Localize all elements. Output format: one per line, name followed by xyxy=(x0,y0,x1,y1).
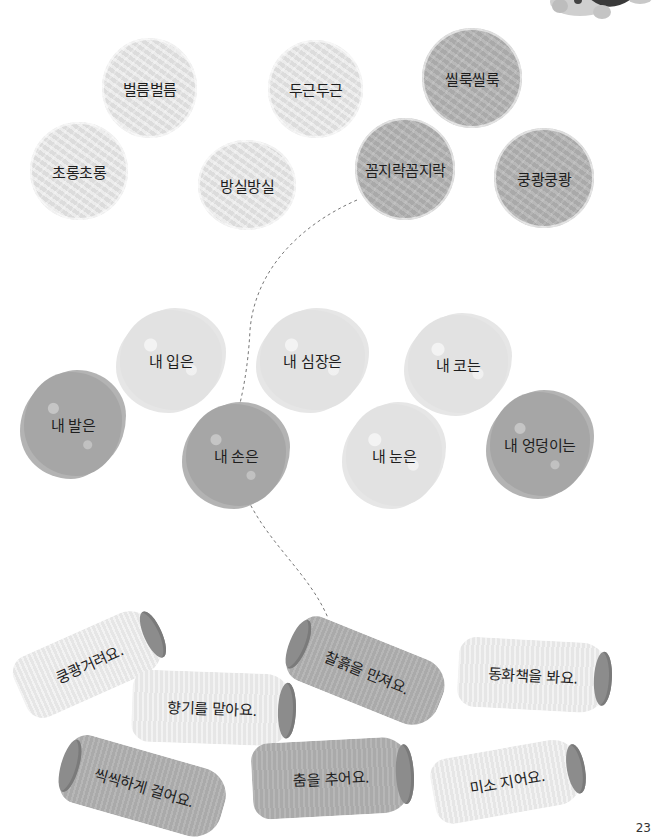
yarn-ball[interactable]: 벌름벌름 xyxy=(102,38,197,138)
scribble-cloud[interactable]: 내 발은 xyxy=(24,372,122,476)
scribble-cloud[interactable]: 내 손은 xyxy=(186,404,286,506)
scribble-cloud[interactable]: 내 눈은 xyxy=(346,404,442,506)
yarn-ball[interactable]: 초롱초롱 xyxy=(30,122,128,220)
spool-label: 미소 지어요. xyxy=(431,758,582,805)
scribble-cloud[interactable]: 내 코는 xyxy=(408,315,508,413)
scribble-label: 내 손은 xyxy=(186,445,286,466)
thread-spool[interactable]: 춤을 추어요. xyxy=(250,736,412,820)
thread-spool[interactable]: 향기를 맡아요. xyxy=(131,669,293,747)
scribble-label: 내 엉덩이는 xyxy=(490,434,590,455)
yarn-ball-label: 쿵쾅쿵쾅 xyxy=(494,168,594,189)
scribble-label: 내 입은 xyxy=(120,350,222,371)
spool-label: 춤을 추어요. xyxy=(252,763,411,792)
yarn-ball-label: 씰룩씰룩 xyxy=(422,68,522,89)
yarn-ball-label: 초롱초롱 xyxy=(30,161,128,182)
spool-label: 향기를 맡아요. xyxy=(132,695,293,722)
yarn-ball-label: 방실방실 xyxy=(198,175,296,196)
yarn-ball-label: 꼼지락꼼지락 xyxy=(355,159,455,180)
spool-label: 동화책을 봐요. xyxy=(458,661,609,690)
yarn-ball[interactable]: 쿵쾅쿵쾅 xyxy=(494,128,594,228)
scribble-label: 내 눈은 xyxy=(346,445,442,466)
yarn-ball-label: 벌름벌름 xyxy=(102,78,197,99)
dashed-line-scribble-to-spool xyxy=(248,500,328,618)
yarn-ball[interactable]: 방실방실 xyxy=(198,140,296,230)
scribble-label: 내 코는 xyxy=(408,354,508,375)
scribble-label: 내 발은 xyxy=(24,414,122,435)
scribble-cloud[interactable]: 내 입은 xyxy=(120,310,222,410)
yarn-ball[interactable]: 꼼지락꼼지락 xyxy=(355,118,455,220)
page-number: 23 xyxy=(636,821,651,835)
scribble-cloud[interactable]: 내 엉덩이는 xyxy=(490,392,590,496)
scribble-cloud[interactable]: 내 심장은 xyxy=(260,310,365,410)
yarn-ball[interactable]: 씰룩씰룩 xyxy=(422,28,522,128)
yarn-ball[interactable]: 두근두근 xyxy=(268,40,363,138)
scribble-label: 내 심장은 xyxy=(260,350,365,371)
thread-spool[interactable]: 동화책을 봐요. xyxy=(456,636,609,714)
yarn-ball-label: 두근두근 xyxy=(268,79,363,100)
